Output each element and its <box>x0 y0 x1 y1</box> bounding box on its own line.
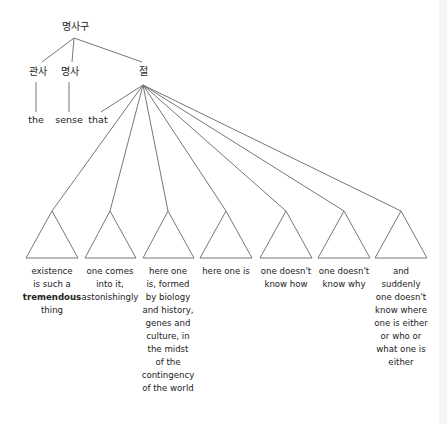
phrase-7-line: or who or <box>370 330 432 343</box>
phrase-7-line: what one is <box>370 343 432 356</box>
edge-clause-t7 <box>143 85 401 211</box>
phrase-3-line: of the world <box>137 382 199 395</box>
phrase-3: here one is, formed by biology and histo… <box>137 265 199 395</box>
clause-node-label: 절 <box>139 66 148 78</box>
phrase-4-line: here one is <box>195 265 257 278</box>
leaf-the: the <box>28 114 44 126</box>
phrase-3-line: culture, in <box>137 330 199 343</box>
phrase-1-line-bold: tremendous <box>21 291 83 304</box>
triangle-2 <box>85 211 136 258</box>
phrase-6-line: know why <box>313 278 375 291</box>
edge-root-article <box>42 38 74 62</box>
noun-node-label: 명사 <box>61 66 79 78</box>
phrase-7-line: suddenly <box>370 278 432 291</box>
triangle-6 <box>318 211 370 258</box>
triangle-7 <box>375 211 427 258</box>
phrase-3-line: contingency <box>137 369 199 382</box>
leaf-that: that <box>88 114 107 126</box>
phrase-7: and suddenly one doesn't know where one … <box>370 265 432 369</box>
triangle-4 <box>200 211 252 258</box>
edge-root-clause <box>74 38 142 62</box>
phrase-3-line: the midst <box>137 343 199 356</box>
edge-clause-t6 <box>143 85 344 211</box>
phrase-5: one doesn't know how <box>255 265 317 291</box>
triangle-1 <box>26 211 78 258</box>
phrase-7-line: know where <box>370 304 432 317</box>
leaf-sense: sense <box>55 114 83 126</box>
phrase-6: one doesn't know why <box>313 265 375 291</box>
edge-clause-t1 <box>52 85 143 211</box>
phrase-7-line: one is either <box>370 317 432 330</box>
phrase-7-line: and <box>370 265 432 278</box>
phrase-2: one comes into it, astonishingly <box>79 265 141 304</box>
phrase-6-line: one doesn't <box>313 265 375 278</box>
phrase-3-line: and history, <box>137 304 199 317</box>
phrase-3-line: here one <box>137 265 199 278</box>
edge-clause-t2 <box>110 85 143 211</box>
phrase-1-line: is such a <box>21 278 83 291</box>
triangle-3 <box>143 211 194 258</box>
phrase-1-line: existence <box>21 265 83 278</box>
phrase-7-line: one doesn't <box>370 291 432 304</box>
phrase-2-line: one comes <box>79 265 141 278</box>
article-node-label: 관사 <box>29 66 47 78</box>
phrase-4: here one is <box>195 265 257 278</box>
phrase-5-line: one doesn't <box>255 265 317 278</box>
phrase-3-line: of the <box>137 356 199 369</box>
phrase-7-line: either <box>370 356 432 369</box>
edge-root-noun <box>72 38 74 62</box>
phrase-3-line: is, formed <box>137 278 199 291</box>
phrase-5-line: know how <box>255 278 317 291</box>
triangle-5 <box>260 211 312 258</box>
root-node-label: 명사구 <box>62 21 89 33</box>
phrase-1: existence is such a tremendous thing <box>21 265 83 317</box>
phrase-1-line: thing <box>21 304 83 317</box>
phrase-2-line: astonishingly <box>79 291 141 304</box>
phrase-3-line: genes and <box>137 317 199 330</box>
phrase-2-line: into it, <box>79 278 141 291</box>
phrase-3-line: by biology <box>137 291 199 304</box>
